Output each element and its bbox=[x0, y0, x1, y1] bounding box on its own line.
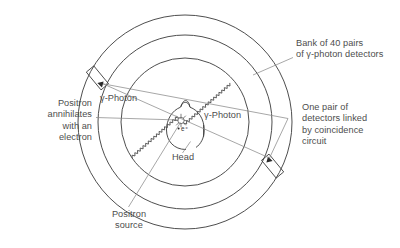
label-positron-source: Positron source bbox=[90, 209, 168, 232]
label-gamma-photon-right: γ-Photon bbox=[204, 110, 241, 121]
leader-bank-of-detectors bbox=[253, 58, 293, 76]
leader-positron-annihilates bbox=[96, 118, 179, 121]
positron-dot bbox=[178, 128, 180, 130]
leader-positron-source bbox=[129, 123, 181, 208]
detector-element-upper-left bbox=[86, 66, 108, 90]
inner-detector-ring bbox=[98, 35, 272, 209]
label-positron-symbol: e⁺ bbox=[181, 125, 188, 132]
label-bank-of-detectors: Bank of 40 pairs of γ-photon detectors bbox=[296, 38, 400, 61]
scanner-bore-circle bbox=[121, 58, 249, 186]
head-outline-back bbox=[196, 140, 202, 147]
label-one-pair-of-detectors: One pair of detectors linked by coincide… bbox=[302, 102, 400, 148]
label-head: Head bbox=[158, 152, 208, 163]
pet-scanner-diagram: Bank of 40 pairs of γ-photon detectors O… bbox=[0, 0, 400, 248]
detector-element-lower-right bbox=[262, 154, 284, 178]
label-gamma-photon-left: γ-Photon bbox=[100, 93, 137, 104]
label-positron-annihilates: Positron annihilates with an electron bbox=[0, 98, 92, 144]
outer-detector-ring bbox=[78, 15, 292, 229]
